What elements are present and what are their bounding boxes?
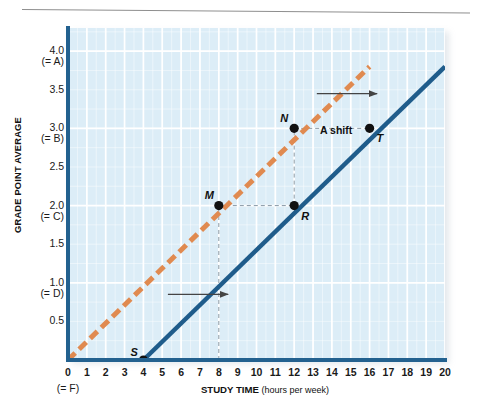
y-tick-2-5: 2.5 (2, 161, 64, 172)
y-tick-value: 2.0 (49, 199, 64, 211)
x-axis-line (66, 358, 447, 362)
horizontal-rule (22, 9, 470, 14)
y-axis-title: GRADE POINT AVERAGE (13, 95, 23, 255)
plot-area (68, 28, 445, 360)
y-tick-3-5: 3.5 (2, 84, 64, 95)
point-label-t: T (377, 132, 384, 144)
chart-svg (68, 28, 445, 360)
y-tick-4-0: 4.0(= A) (2, 45, 64, 67)
y-tick-1-0: 1.0(= D) (2, 277, 64, 299)
point-label-n: N (280, 112, 288, 124)
y-tick-value: 2.5 (49, 160, 64, 172)
y-tick-value: 1.5 (49, 237, 64, 249)
y-tick-grade: (= A) (2, 56, 64, 67)
y-tick-value: 3.5 (49, 83, 64, 95)
y-tick-1-5: 1.5 (2, 238, 64, 249)
figure-container: 0.51.0(= D)1.52.0(= C)2.53.0(= B)3.54.0(… (0, 0, 477, 409)
data-point-n (290, 124, 299, 133)
y-tick-grade: (= C) (2, 211, 64, 222)
x-tick-20: 20 (433, 366, 457, 378)
x-axis-title: STUDY TIME (hours per week) (120, 384, 410, 395)
x-axis-zero-sublabel: (= F) (44, 382, 92, 394)
x-axis-title-note: (hours per week) (262, 385, 330, 395)
y-axis-tick-labels: 0.51.0(= D)1.52.0(= C)2.53.0(= B)3.54.0(… (0, 0, 64, 409)
y-tick-3-0: 3.0(= B) (2, 122, 64, 144)
shift-annotation-label: A shift (320, 124, 352, 136)
x-axis-tick-labels: 01234567891011121314151617181920 (0, 366, 477, 382)
point-label-s: S (130, 346, 137, 358)
data-point-r (290, 201, 299, 210)
y-tick-0-5: 0.5 (2, 315, 64, 326)
y-axis-line (66, 26, 70, 362)
gridlines-major (68, 28, 445, 360)
point-label-r: R (301, 210, 309, 222)
y-tick-grade: (= D) (2, 288, 64, 299)
y-tick-value: 0.5 (49, 314, 64, 326)
point-label-m: M (205, 189, 214, 201)
data-point-m (214, 201, 223, 210)
y-tick-value: 1.0 (49, 276, 64, 288)
data-point-t (365, 124, 374, 133)
y-tick-grade: (= B) (2, 133, 64, 144)
x-axis-title-main: STUDY TIME (201, 384, 259, 395)
y-tick-2-0: 2.0(= C) (2, 200, 64, 222)
